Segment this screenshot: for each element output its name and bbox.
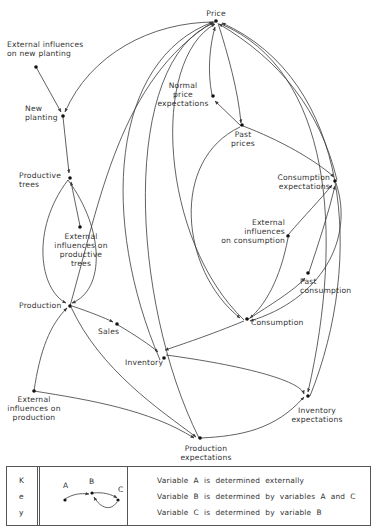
legend-example-arrows xyxy=(43,467,128,525)
node-production-expectations: Production expectations xyxy=(176,444,236,462)
node-production: Production xyxy=(19,301,61,310)
node-ext-production: External influences on production xyxy=(5,395,63,422)
legend-node-a: A xyxy=(63,481,68,490)
legend-title-column: K e y xyxy=(7,467,40,525)
legend-line-c: Variable C is determined by variable B xyxy=(157,508,322,517)
legend-title-letter: K xyxy=(19,476,24,485)
node-consumption: Consumption xyxy=(251,318,304,327)
legend-example-diagram: A B C xyxy=(43,467,128,525)
node-inventory: Inventory xyxy=(125,358,163,367)
node-ext-productive-trees: External influences on productive trees xyxy=(52,232,110,268)
node-past-consumption: Past consumption xyxy=(300,277,351,295)
legend-title-letter: y xyxy=(19,508,23,517)
node-consumption-expectations: Consumption expectations xyxy=(268,173,330,191)
node-price: Price xyxy=(200,9,232,18)
node-inventory-expectations: Inventory expectations xyxy=(290,406,344,424)
node-productive-trees: Productive trees xyxy=(19,171,61,189)
legend-line-b: Variable B is determined by variables A … xyxy=(157,492,356,501)
node-sales: Sales xyxy=(98,327,119,336)
legend-title-letter: e xyxy=(19,492,24,501)
node-past-prices: Past prices xyxy=(228,130,258,148)
node-ext-new-planting: External influences on new planting xyxy=(7,40,84,58)
legend-node-c: C xyxy=(118,485,123,494)
node-ext-consumption: External influences on consumption xyxy=(215,218,285,245)
legend-node-b: B xyxy=(89,477,94,486)
legend-line-a: Variable A is determined externally xyxy=(157,476,304,485)
node-new-planting: New planting xyxy=(25,104,58,122)
legend-key: K e y A B C Variable A is determined ext… xyxy=(6,466,371,526)
node-normal-price-expectations: Normal price expectations xyxy=(157,81,209,108)
